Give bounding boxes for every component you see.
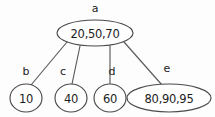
node-a-value: 20,50,70: [71, 27, 120, 41]
node-c[interactable]: 40 c: [55, 65, 87, 112]
node-c-value: 40: [64, 92, 78, 106]
node-c-label: c: [60, 65, 66, 78]
btree-diagram: 20,50,70 a 10 b 40 c 60 d 80,90,95 e: [0, 0, 215, 117]
node-d-value: 60: [103, 92, 117, 106]
node-d-label: d: [109, 65, 116, 78]
edge-a-to-c: [72, 46, 80, 84]
edge-a-to-e: [124, 42, 162, 85]
node-d[interactable]: 60 d: [94, 65, 126, 112]
node-a-label: a: [92, 2, 99, 15]
edge-a-to-b: [31, 42, 67, 85]
node-e-value: 80,90,95: [145, 92, 194, 106]
node-a[interactable]: 20,50,70 a: [57, 2, 133, 46]
node-e-label: e: [164, 62, 171, 75]
node-b-value: 10: [19, 92, 33, 106]
edge-group: [31, 42, 162, 85]
tree-canvas: 20,50,70 a 10 b 40 c 60 d 80,90,95 e: [0, 0, 215, 117]
node-e[interactable]: 80,90,95 e: [127, 62, 211, 112]
node-b[interactable]: 10 b: [10, 65, 42, 112]
node-b-label: b: [23, 65, 30, 78]
